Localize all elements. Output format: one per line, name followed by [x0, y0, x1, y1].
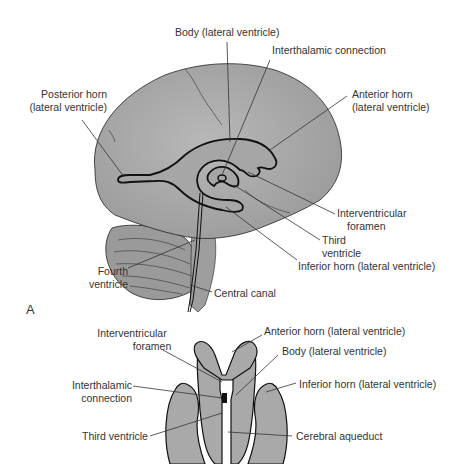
panel-letter-a: A [26, 302, 35, 317]
interthalamic-connection-b [222, 393, 227, 403]
brainstem [190, 232, 216, 312]
label-posterior-horn-line2: (lateral ventricle) [27, 101, 107, 114]
interthalamic-connection [218, 175, 226, 181]
label-anterior-horn: Anterior horn (lateral ventricle) [352, 88, 430, 113]
label-fourth-line1: Fourth [70, 265, 128, 278]
label-b-anterior-horn: Anterior horn (lateral ventricle) [264, 325, 405, 338]
label-fourth-line2: ventricle [70, 278, 128, 291]
label-anterior-horn-line2: (lateral ventricle) [352, 101, 430, 114]
label-fourth-ventricle: Fourth ventricle [70, 265, 128, 290]
label-anterior-horn-line1: Anterior horn [352, 88, 430, 101]
label-b-interventricular-line1: Interventricular [92, 327, 172, 340]
label-b-interthalamic-line1: Interthalamic [62, 379, 132, 392]
label-b-body: Body (lateral ventricle) [282, 345, 386, 358]
label-b-interventricular-foramen: Interventricular foramen [92, 327, 172, 352]
label-interthalamic-connection: Interthalamic connection [272, 44, 386, 57]
label-b-third-ventricle: Third ventricle [82, 430, 148, 443]
label-third-ventricle: Third ventricle [322, 234, 361, 259]
label-body-lateral-ventricle: Body (lateral ventricle) [175, 26, 279, 39]
label-b-inferior-horn: Inferior horn (lateral ventricle) [299, 378, 436, 391]
label-central-canal: Central canal [214, 287, 276, 300]
label-b-cerebral-aqueduct: Cerebral aqueduct [296, 430, 382, 443]
label-interventricular-line2: foramen [337, 220, 406, 233]
label-b-interventricular-line2: foramen [92, 340, 172, 353]
label-b-interthalamic-connection: Interthalamic connection [62, 379, 132, 404]
label-posterior-horn: Posterior horn (lateral ventricle) [27, 88, 107, 113]
label-third-line2: ventricle [322, 247, 361, 260]
label-posterior-horn-line1: Posterior horn [27, 88, 107, 101]
label-b-interthalamic-line2: connection [62, 392, 132, 405]
label-inferior-horn: Inferior horn (lateral ventricle) [298, 260, 435, 273]
label-interventricular-foramen: Interventricular foramen [337, 207, 406, 232]
label-interventricular-line1: Interventricular [337, 207, 406, 220]
label-third-line1: Third [322, 234, 361, 247]
